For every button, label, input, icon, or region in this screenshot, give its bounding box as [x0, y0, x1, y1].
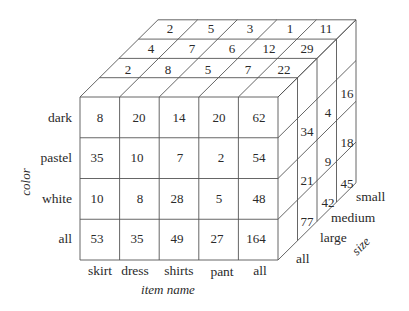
- depth-label-small: small: [356, 189, 385, 204]
- depth-label-all: all: [296, 251, 310, 266]
- color-axis-labels: dark pastel white all color: [18, 110, 72, 246]
- top-cell: 22: [278, 62, 291, 77]
- col-label-shirts: shirts: [164, 263, 193, 278]
- col-label-skirt: skirt: [88, 263, 112, 278]
- row-label-dark: dark: [48, 110, 72, 125]
- row-label-all: all: [59, 231, 73, 246]
- depth-label-large: large: [320, 230, 347, 245]
- side-cell: 34: [301, 124, 315, 139]
- cube-lines: [80, 20, 356, 260]
- cell-dark-pant: 20: [213, 110, 226, 125]
- cell-white-shirts: 28: [171, 191, 184, 206]
- cell-all-pant: 27: [211, 231, 225, 246]
- side-cell: 77: [301, 214, 315, 229]
- side-cell: 18: [341, 135, 354, 150]
- cell-dark-all: 62: [253, 110, 266, 125]
- top-cell: 5: [205, 62, 212, 77]
- cell-pastel-pant: 2: [218, 150, 225, 165]
- side-cell: 42: [322, 195, 335, 210]
- top-cell: 7: [245, 62, 252, 77]
- data-cube-diagram: 8 20 14 20 62 35 10 7 2 54 10 8 28 5 48 …: [0, 0, 409, 311]
- col-label-dress: dress: [121, 263, 149, 278]
- col-label-all: all: [253, 263, 267, 278]
- item-axis-title: item name: [141, 282, 195, 297]
- side-cell: 9: [325, 154, 332, 169]
- cell-pastel-skirt: 35: [91, 150, 104, 165]
- top-cell: 8: [165, 62, 172, 77]
- top-cell: 5: [208, 21, 215, 36]
- cell-dark-skirt: 8: [97, 110, 104, 125]
- col-label-pant: pant: [210, 264, 233, 279]
- side-cell: 16: [341, 86, 355, 101]
- cell-pastel-all: 54: [253, 150, 267, 165]
- cell-white-dress: 8: [137, 191, 144, 206]
- cell-pastel-dress: 10: [131, 150, 144, 165]
- top-cell: 6: [229, 41, 236, 56]
- size-axis-title: size: [349, 233, 374, 258]
- top-cell: 2: [125, 62, 132, 77]
- cell-white-pant: 5: [216, 191, 223, 206]
- front-face-values: 8 20 14 20 62 35 10 7 2 54 10 8 28 5 48 …: [91, 110, 267, 246]
- top-cell: 1: [287, 21, 294, 36]
- side-cell: 4: [325, 105, 332, 120]
- top-cell: 4: [148, 41, 155, 56]
- top-cell: 7: [189, 41, 196, 56]
- cell-white-all: 48: [253, 191, 266, 206]
- side-cell: 21: [301, 173, 314, 188]
- row-label-white: white: [42, 191, 72, 206]
- row-label-pastel: pastel: [41, 150, 73, 165]
- cell-pastel-shirts: 7: [177, 150, 184, 165]
- cell-dark-dress: 20: [133, 110, 146, 125]
- item-axis-labels: skirt dress shirts pant all item name: [88, 263, 267, 297]
- top-cell: 11: [320, 21, 333, 36]
- top-face-values: 2 5 3 1 11 4 7 6 12 29 2 8 5 7 22: [125, 21, 333, 77]
- depth-label-medium: medium: [331, 210, 376, 225]
- top-cell: 29: [301, 41, 314, 56]
- cell-all-all: 164: [246, 231, 266, 246]
- side-cell: 45: [341, 176, 354, 191]
- cell-all-dress: 35: [131, 231, 144, 246]
- top-cell: 2: [167, 21, 174, 36]
- cell-dark-shirts: 14: [173, 110, 187, 125]
- top-cell: 12: [263, 41, 276, 56]
- cell-all-skirt: 53: [91, 231, 104, 246]
- cell-all-shirts: 49: [171, 231, 184, 246]
- cell-white-skirt: 10: [91, 191, 104, 206]
- color-axis-title: color: [18, 167, 33, 195]
- top-cell: 3: [247, 21, 254, 36]
